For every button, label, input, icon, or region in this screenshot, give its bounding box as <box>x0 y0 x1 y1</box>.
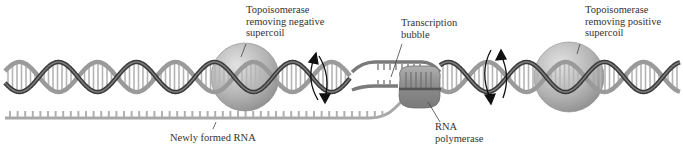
label-line: removing positive <box>585 16 661 28</box>
label-line: removing negative <box>246 16 324 28</box>
rna-polymerase <box>399 66 441 108</box>
label-newly-formed-rna: Newly formed RNA <box>170 132 256 144</box>
label-line: RNA <box>435 121 483 133</box>
rna-bases <box>10 111 382 117</box>
label-line: Newly formed RNA <box>170 132 256 144</box>
label-line: Topoisomerase <box>585 4 661 16</box>
label-transcription-bubble: Transcription bubble <box>401 17 457 40</box>
newly-formed-rna <box>5 98 405 118</box>
label-line: polymerase <box>435 133 483 145</box>
label-line: Topoisomerase <box>246 4 324 16</box>
label-topoisomerase-negative: Topoisomerase removing negative supercoi… <box>246 4 324 39</box>
label-line: Transcription <box>401 17 457 29</box>
label-rna-polymerase: RNA polymerase <box>435 121 483 144</box>
label-line: supercoil <box>246 27 324 39</box>
label-topoisomerase-positive: Topoisomerase removing positive supercoi… <box>585 4 661 39</box>
label-line: bubble <box>401 29 457 41</box>
supercoiling-diagram <box>0 0 683 153</box>
label-line: supercoil <box>585 27 661 39</box>
